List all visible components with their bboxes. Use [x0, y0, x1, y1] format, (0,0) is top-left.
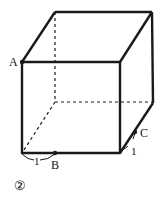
measure-label-B: 1	[34, 155, 40, 167]
cube-diagram: A B C 1 1 ②	[0, 0, 164, 207]
edge-top-right-depth	[120, 12, 152, 62]
label-C: C	[140, 126, 148, 140]
edge-top-left-depth	[22, 12, 55, 62]
label-B: B	[51, 158, 59, 172]
label-A: A	[9, 55, 18, 69]
hidden-edge-depth-bottom-left	[22, 102, 55, 153]
figure-number: ②	[14, 178, 26, 193]
edge-bottom-right-depth	[120, 103, 153, 153]
edge-back-right-vertical	[152, 12, 153, 103]
front-face	[22, 62, 120, 153]
measure-label-C: 1	[131, 145, 137, 157]
point-A	[20, 60, 24, 64]
